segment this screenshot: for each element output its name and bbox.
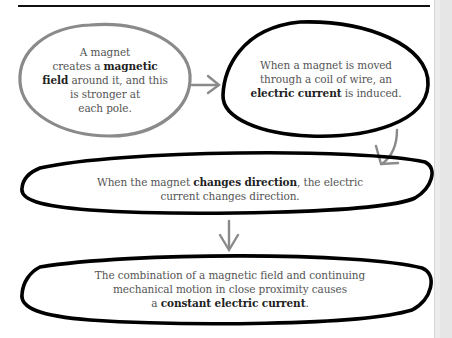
text-line: a constant electric current. xyxy=(40,296,420,310)
body-text: current changes direction. xyxy=(160,190,299,202)
body-text: through a coil of wire, an xyxy=(260,73,392,85)
node-magnet-field-text: A magnetcreates a magneticfield around i… xyxy=(30,45,180,115)
text-line: electric current is induced. xyxy=(228,86,424,100)
arrow-down-icon xyxy=(220,221,238,250)
text-line: creates a magnetic xyxy=(30,59,180,73)
text-line: A magnet xyxy=(30,45,180,59)
body-text: around it, and this xyxy=(68,74,168,86)
body-text: is induced. xyxy=(341,87,401,99)
emphasis-text: field xyxy=(42,74,68,86)
emphasis-text: magnetic xyxy=(104,60,158,72)
body-text: each pole. xyxy=(78,102,131,114)
emphasis-text: changes direction xyxy=(193,176,297,188)
arrow-right-icon xyxy=(192,76,219,93)
node-direction-change-text: When the magnet changes direction, the e… xyxy=(40,175,420,203)
diagram-page: A magnetcreates a magneticfield around i… xyxy=(0,0,435,338)
text-line: The combination of a magnetic field and … xyxy=(40,268,420,282)
emphasis-text: electric current xyxy=(251,87,342,99)
body-text: The combination of a magnetic field and … xyxy=(95,269,365,281)
body-text: is stronger at xyxy=(70,88,140,100)
text-line: each pole. xyxy=(30,101,180,115)
node-induced-current-text: When a magnet is movedthrough a coil of … xyxy=(228,58,424,100)
text-line: mechanical motion in close proximity cau… xyxy=(40,282,420,296)
body-text: When the magnet xyxy=(97,176,193,188)
body-text: A magnet xyxy=(80,46,130,58)
side-panel xyxy=(435,0,452,338)
text-line: When a magnet is moved xyxy=(228,58,424,72)
node-constant-current-text: The combination of a magnetic field and … xyxy=(40,268,420,310)
text-line: through a coil of wire, an xyxy=(228,72,424,86)
body-text: creates a xyxy=(52,60,103,72)
emphasis-text: constant electric current xyxy=(161,297,306,309)
text-line: When the magnet changes direction, the e… xyxy=(40,175,420,189)
body-text: When a magnet is moved xyxy=(260,59,392,71)
body-text: , the electric xyxy=(297,176,363,188)
scrollbar-track[interactable] xyxy=(440,0,452,338)
text-line: is stronger at xyxy=(30,87,180,101)
body-text: . xyxy=(305,297,308,309)
body-text: mechanical motion in close proximity cau… xyxy=(113,283,347,295)
body-text: a xyxy=(151,297,160,309)
text-line: field around it, and this xyxy=(30,73,180,87)
text-line: current changes direction. xyxy=(40,189,420,203)
